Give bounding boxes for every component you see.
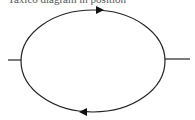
arrow-right-icon xyxy=(96,6,104,14)
loop-diagram xyxy=(0,0,195,120)
arrow-left-icon xyxy=(79,108,87,116)
loop-ellipse xyxy=(21,10,165,112)
